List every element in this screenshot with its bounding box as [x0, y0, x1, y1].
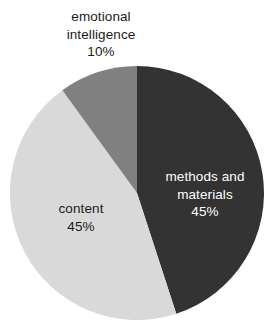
- pie-label-methods-and-materials-value: 45%: [147, 203, 263, 221]
- pie-label-methods-and-materials-line1: methods and: [147, 168, 263, 186]
- pie-label-emotional-intelligence-line1: emotional: [28, 8, 174, 26]
- pie-chart-figure: emotional intelligence 10% methods and m…: [0, 0, 276, 333]
- pie-label-emotional-intelligence: emotional intelligence 10%: [28, 8, 174, 61]
- pie-label-content-value: 45%: [29, 218, 133, 236]
- pie-label-emotional-intelligence-value: 10%: [28, 43, 174, 61]
- pie-label-methods-and-materials-line2: materials: [147, 186, 263, 204]
- pie-label-content-line1: content: [29, 200, 133, 218]
- pie-label-emotional-intelligence-line2: intelligence: [28, 26, 174, 44]
- pie-label-content: content 45%: [29, 200, 133, 235]
- pie-label-methods-and-materials: methods and materials 45%: [147, 168, 263, 221]
